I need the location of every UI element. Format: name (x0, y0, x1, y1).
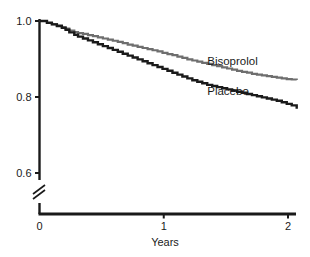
x-tick-label-0: 0 (36, 220, 42, 232)
series-annotation-labels: BisoprololPlacebo (207, 55, 257, 97)
y-tick-label-1-0: 1.0 (16, 15, 31, 27)
kaplan-meier-chart: 1.00.80.6 012 Years BisoprololPlacebo (0, 0, 310, 257)
series-curves (40, 21, 297, 109)
x-tick-label-2: 2 (285, 220, 291, 232)
series-label-placebo: Placebo (207, 85, 249, 97)
x-axis-title: Years (151, 236, 179, 248)
survival-curve-figure: 1.00.80.6 012 Years BisoprololPlacebo (0, 0, 310, 257)
y-tick-label-0-6: 0.6 (16, 167, 31, 179)
series-label-bisoprolol: Bisoprolol (207, 55, 257, 67)
y-tick-labels: 1.00.80.6 (16, 15, 31, 179)
y-tick-label-0-8: 0.8 (16, 91, 31, 103)
x-tick-label-1: 1 (161, 220, 167, 232)
x-axis-group: 012 Years (36, 214, 296, 248)
y-axis-break-icon (33, 185, 45, 199)
y-axis-group: 1.00.80.6 (16, 15, 45, 214)
x-tick-labels: 012 (36, 220, 291, 232)
survival-curve-placebo (40, 21, 297, 109)
